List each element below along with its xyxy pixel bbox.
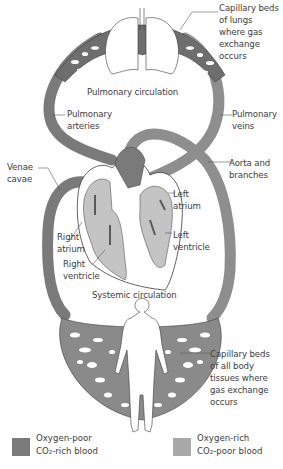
label-line: occurs (210, 396, 270, 408)
left-lung (105, 18, 138, 74)
label-line: atrium (173, 200, 201, 212)
legend-swatch-oxygen-poor (12, 438, 30, 456)
label-line: Pulmonary (67, 108, 112, 120)
legend-line: CO₂-rich blood (36, 445, 98, 458)
label-line: Pulmonary (232, 108, 277, 120)
label-line: cavae (7, 173, 33, 185)
label-aorta: Aorta and branches (229, 157, 270, 181)
label-line: Venae (7, 161, 33, 173)
label-line: Right (57, 231, 85, 243)
label-pulmonary-arteries: Pulmonary arteries (67, 108, 112, 132)
label-line: Left (173, 229, 210, 241)
legend-oxygen-rich: Oxygen-rich CO₂-poor blood (173, 432, 262, 458)
label-left-atrium: Left atrium (173, 188, 201, 212)
label-pulmonary-circulation: Pulmonary circulation (87, 86, 178, 98)
label-line: Right (63, 258, 100, 270)
label-capillary-body: Capillary beds of all body tissues where… (210, 348, 270, 408)
label-systemic-circulation: Systemic circulation (92, 289, 177, 301)
label-line: occurs (219, 50, 279, 62)
label-capillary-lungs: Capillary beds of lungs where gas exchan… (219, 2, 279, 62)
label-line: Aorta and (229, 157, 270, 169)
label-right-atrium: Right atrium (57, 231, 85, 255)
legend-oxygen-poor: Oxygen-poor CO₂-rich blood (12, 432, 98, 458)
label-line: exchange (219, 38, 279, 50)
label-line: of all body (210, 360, 270, 372)
legend-line: Oxygen-poor (36, 432, 98, 445)
label-line: atrium (57, 243, 85, 255)
label-line: veins (232, 120, 277, 132)
legend-line: CO₂-poor blood (197, 445, 262, 458)
label-venae-cavae: Venae cavae (7, 161, 33, 185)
label-line: Left (173, 188, 201, 200)
label-pulmonary-veins: Pulmonary veins (232, 108, 277, 132)
label-line: Capillary beds (210, 348, 270, 360)
right-lung (146, 18, 179, 74)
label-right-ventricle: Right ventricle (63, 258, 100, 282)
legend-swatch-oxygen-rich (173, 438, 191, 456)
label-line: ventricle (63, 270, 100, 282)
label-line: gas exchange (210, 384, 270, 396)
legend-text: Oxygen-poor CO₂-rich blood (36, 432, 98, 458)
label-left-ventricle: Left ventricle (173, 229, 210, 253)
label-line: branches (229, 169, 270, 181)
label-line: tissues where (210, 372, 270, 384)
label-line: of lungs (219, 14, 279, 26)
legend-line: Oxygen-rich (197, 432, 262, 445)
legend-text: Oxygen-rich CO₂-poor blood (197, 432, 262, 458)
label-line: arteries (67, 120, 112, 132)
label-line: ventricle (173, 241, 210, 253)
label-line: Capillary beds (219, 2, 279, 14)
label-line: where gas (219, 26, 279, 38)
